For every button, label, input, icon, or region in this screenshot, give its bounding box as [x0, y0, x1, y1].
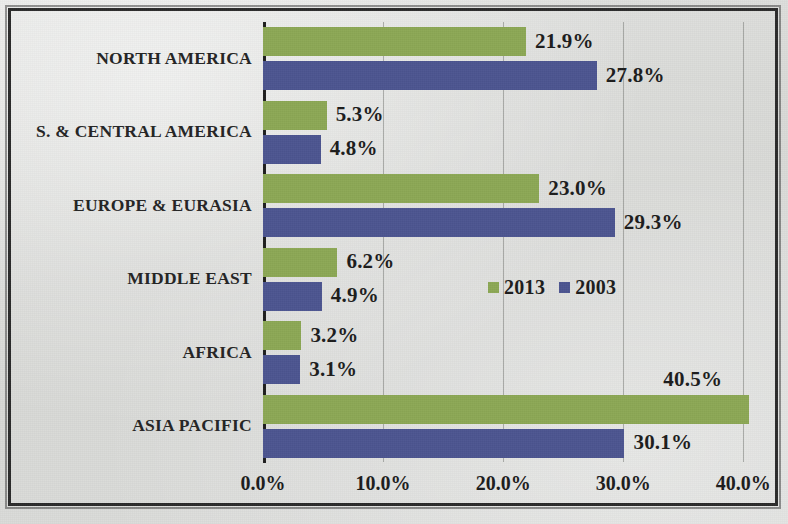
x-axis-tick-label: 30.0% [596, 472, 651, 495]
bar-value-label: 4.9% [331, 283, 379, 308]
bar-2013-north-america [263, 27, 526, 56]
legend-entry-2013[interactable]: 2013 [488, 276, 545, 299]
bar-value-label: 29.3% [624, 210, 683, 235]
bar-2003-north-america [263, 61, 597, 90]
bar-2003-s-central-america [263, 135, 321, 164]
legend-entry-2003[interactable]: 2003 [559, 276, 616, 299]
chart-legend: 20132003 [488, 276, 616, 299]
bar-value-label: 23.0% [548, 176, 607, 201]
bar-value-label: 30.1% [633, 430, 692, 455]
bar-value-label: 21.9% [535, 29, 594, 54]
bar-value-label: 3.2% [310, 323, 358, 348]
bar-2003-europe-eurasia [263, 208, 615, 237]
bar-2013-europe-eurasia [263, 174, 539, 203]
bar-value-label: 40.5% [663, 367, 722, 392]
bar-2013-africa [263, 321, 301, 350]
category-label: NORTH AMERICA [0, 48, 252, 69]
category-label: ASIA PACIFIC [0, 415, 252, 436]
bar-value-label: 4.8% [330, 136, 378, 161]
bar-2013-middle-east [263, 248, 337, 277]
category-label: S. & CENTRAL AMERICA [0, 121, 252, 142]
bar-value-label: 3.1% [309, 357, 357, 382]
legend-label: 2013 [504, 276, 545, 299]
legend-swatch-icon [559, 282, 570, 293]
category-label: EUROPE & EURASIA [0, 195, 252, 216]
bar-2013-asia-pacific [263, 395, 749, 424]
legend-label: 2003 [575, 276, 616, 299]
bar-2003-middle-east [263, 282, 322, 311]
x-axis-tick-label: 0.0% [241, 472, 286, 495]
bar-value-label: 6.2% [346, 249, 394, 274]
legend-swatch-icon [488, 282, 499, 293]
category-axis-labels: NORTH AMERICAS. & CENTRAL AMERICAEUROPE … [0, 0, 252, 524]
category-label: AFRICA [0, 342, 252, 363]
bar-2003-africa [263, 355, 300, 384]
bar-value-label: 27.8% [606, 63, 665, 88]
x-axis-tick-label: 40.0% [716, 472, 771, 495]
x-axis-tick-label: 10.0% [356, 472, 411, 495]
x-axis-tick-label: 20.0% [476, 472, 531, 495]
bar-value-label: 5.3% [336, 102, 384, 127]
bar-2003-asia-pacific [263, 429, 624, 458]
chart-screenshot: NORTH AMERICAS. & CENTRAL AMERICAEUROPE … [0, 0, 788, 524]
category-label: MIDDLE EAST [0, 268, 252, 289]
bar-2013-s-central-america [263, 101, 327, 130]
